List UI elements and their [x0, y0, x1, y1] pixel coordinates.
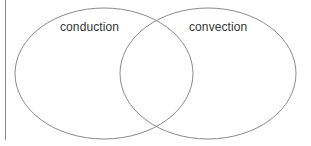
- conduction-label: conduction: [60, 20, 119, 34]
- venn-diagram: conduction convection: [0, 0, 311, 146]
- convection-label: convection: [189, 20, 247, 34]
- venn-svg: [0, 0, 311, 146]
